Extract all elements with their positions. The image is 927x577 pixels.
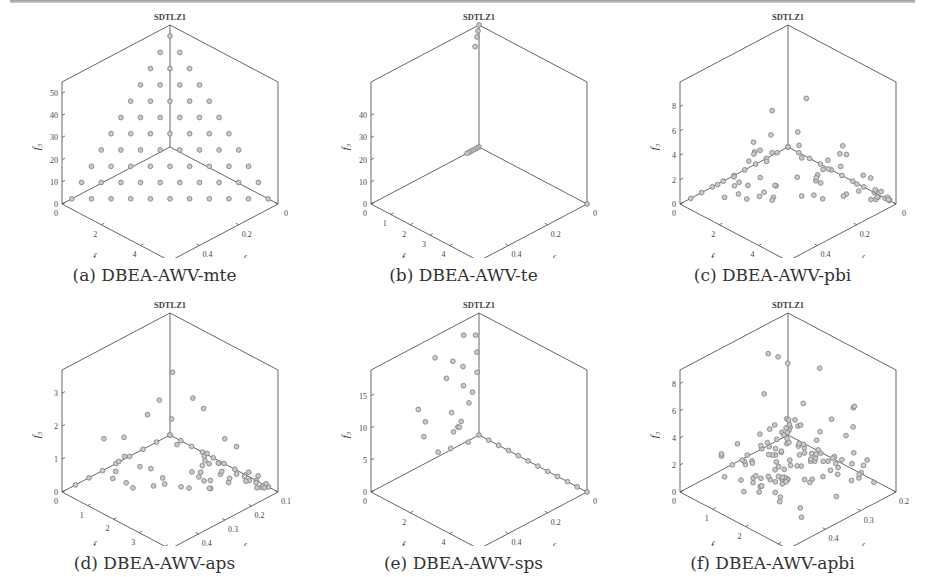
svg-text:10: 10 [359, 178, 367, 187]
svg-text:40: 40 [359, 111, 367, 120]
svg-text:f1: f1 [861, 253, 868, 259]
subplot-title: SDTLZ1 [463, 12, 495, 22]
svg-text:f2: f2 [402, 251, 409, 259]
svg-text:0.3: 0.3 [864, 516, 874, 525]
svg-text:4: 4 [442, 250, 446, 258]
svg-text:0: 0 [54, 488, 58, 497]
svg-text:3: 3 [131, 538, 135, 546]
scatter3d-plot: SDTLZ10102030400123400.20.4f3f2f1 [309, 8, 618, 258]
svg-text:f2: f2 [93, 539, 100, 547]
svg-text:f2: f2 [93, 251, 100, 259]
svg-text:20: 20 [359, 156, 367, 165]
svg-text:f3: f3 [30, 431, 44, 438]
svg-text:0.2: 0.2 [899, 497, 909, 506]
svg-text:0: 0 [284, 209, 288, 218]
svg-text:0: 0 [363, 497, 367, 506]
svg-text:f3: f3 [339, 431, 353, 438]
subplot-c: SDTLZ10246802400.20.4f3f2f1(c) DBEA-AWV-… [618, 8, 927, 296]
subplot-caption: (b) DBEA-AWV-te [309, 265, 618, 285]
svg-text:0: 0 [363, 209, 367, 218]
svg-text:2: 2 [54, 422, 58, 431]
svg-text:0: 0 [54, 497, 58, 506]
subplot-caption: (d) DBEA-AWV-aps [0, 553, 309, 573]
svg-text:0: 0 [593, 209, 597, 218]
svg-text:2: 2 [711, 230, 715, 239]
svg-text:30: 30 [359, 133, 367, 142]
svg-text:f1: f1 [552, 253, 559, 259]
svg-text:15: 15 [359, 392, 367, 401]
svg-text:1: 1 [80, 511, 84, 520]
svg-text:0.4: 0.4 [511, 250, 521, 258]
page-top-rule [10, 0, 915, 3]
svg-text:4: 4 [751, 250, 755, 258]
subplot-e: SDTLZ105101502400.20.4f3f2f1(e) DBEA-AWV… [309, 296, 618, 577]
svg-text:40: 40 [50, 111, 58, 120]
svg-text:1: 1 [383, 219, 387, 228]
subplot-d: SDTLZ10123012340.10.20.30.40.5f3f2f1(d) … [0, 296, 309, 577]
subplot-title: SDTLZ1 [154, 300, 186, 310]
svg-text:10: 10 [50, 178, 58, 187]
svg-text:0: 0 [363, 200, 367, 209]
svg-text:8: 8 [672, 380, 676, 389]
svg-text:0: 0 [363, 488, 367, 497]
svg-text:0.4: 0.4 [511, 538, 521, 546]
svg-text:4: 4 [442, 538, 446, 546]
svg-text:2: 2 [402, 230, 406, 239]
svg-text:2: 2 [105, 524, 109, 533]
scatter3d-plot: SDTLZ10246802400.20.4f3f2f1 [618, 8, 927, 258]
svg-text:4: 4 [672, 434, 676, 443]
subplot-title: SDTLZ1 [772, 300, 804, 310]
svg-text:30: 30 [50, 133, 58, 142]
svg-text:f3: f3 [339, 143, 353, 150]
scatter3d-plot: SDTLZ10123012340.10.20.30.40.5f3f2f1 [0, 296, 309, 546]
svg-text:0: 0 [902, 209, 906, 218]
svg-text:f1: f1 [243, 541, 250, 547]
svg-text:5: 5 [363, 456, 367, 465]
svg-text:f1: f1 [243, 253, 250, 259]
svg-text:2: 2 [93, 230, 97, 239]
subplot-b: SDTLZ10102030400123400.20.4f3f2f1(b) DBE… [309, 8, 618, 296]
subplot-caption: (c) DBEA-AWV-pbi [618, 265, 927, 285]
subplot-caption: (a) DBEA-AWV-mte [0, 265, 309, 285]
subplot-title: SDTLZ1 [154, 12, 186, 22]
subplot-a: SDTLZ10102030405002400.20.4f3f2f1(a) DBE… [0, 8, 309, 296]
svg-text:0: 0 [54, 209, 58, 218]
svg-text:3: 3 [54, 389, 58, 398]
svg-text:0.2: 0.2 [242, 230, 252, 239]
svg-text:0: 0 [593, 497, 597, 506]
svg-text:0.4: 0.4 [828, 534, 838, 543]
subplot-f: SDTLZ10246801230.20.30.40.5f3f2f1(f) DBE… [618, 296, 927, 577]
svg-text:0: 0 [672, 497, 676, 506]
svg-text:0.4: 0.4 [202, 539, 212, 546]
svg-text:0: 0 [672, 200, 676, 209]
svg-text:20: 20 [50, 156, 58, 165]
svg-text:f3: f3 [648, 431, 662, 438]
svg-text:0: 0 [672, 209, 676, 218]
scatter3d-plot: SDTLZ10102030405002400.20.4f3f2f1 [0, 8, 309, 258]
svg-text:0.2: 0.2 [860, 230, 870, 239]
svg-text:f1: f1 [861, 541, 868, 547]
svg-text:f2: f2 [402, 539, 409, 547]
svg-text:0.3: 0.3 [228, 525, 238, 534]
svg-text:2: 2 [402, 518, 406, 527]
scatter3d-plot: SDTLZ105101502400.20.4f3f2f1 [309, 296, 618, 546]
svg-text:4: 4 [672, 151, 676, 160]
svg-text:4: 4 [133, 250, 137, 258]
scatter3d-plot: SDTLZ10246801230.20.30.40.5f3f2f1 [618, 296, 927, 546]
svg-text:50: 50 [50, 89, 58, 98]
svg-text:10: 10 [359, 424, 367, 433]
subplot-title: SDTLZ1 [463, 300, 495, 310]
svg-text:f2: f2 [711, 251, 718, 259]
svg-text:6: 6 [672, 127, 676, 136]
subplot-caption: (f) DBEA-AWV-apbi [618, 553, 927, 573]
svg-text:f3: f3 [30, 143, 44, 150]
subplot-title: SDTLZ1 [772, 12, 804, 22]
svg-text:2: 2 [672, 461, 676, 470]
svg-text:0.4: 0.4 [820, 250, 830, 258]
subplot-caption: (e) DBEA-AWV-sps [309, 553, 618, 573]
svg-text:0.4: 0.4 [202, 250, 212, 258]
svg-text:f3: f3 [648, 143, 662, 150]
svg-text:1: 1 [54, 455, 58, 464]
svg-text:0.1: 0.1 [281, 497, 291, 506]
svg-text:2: 2 [737, 532, 741, 541]
